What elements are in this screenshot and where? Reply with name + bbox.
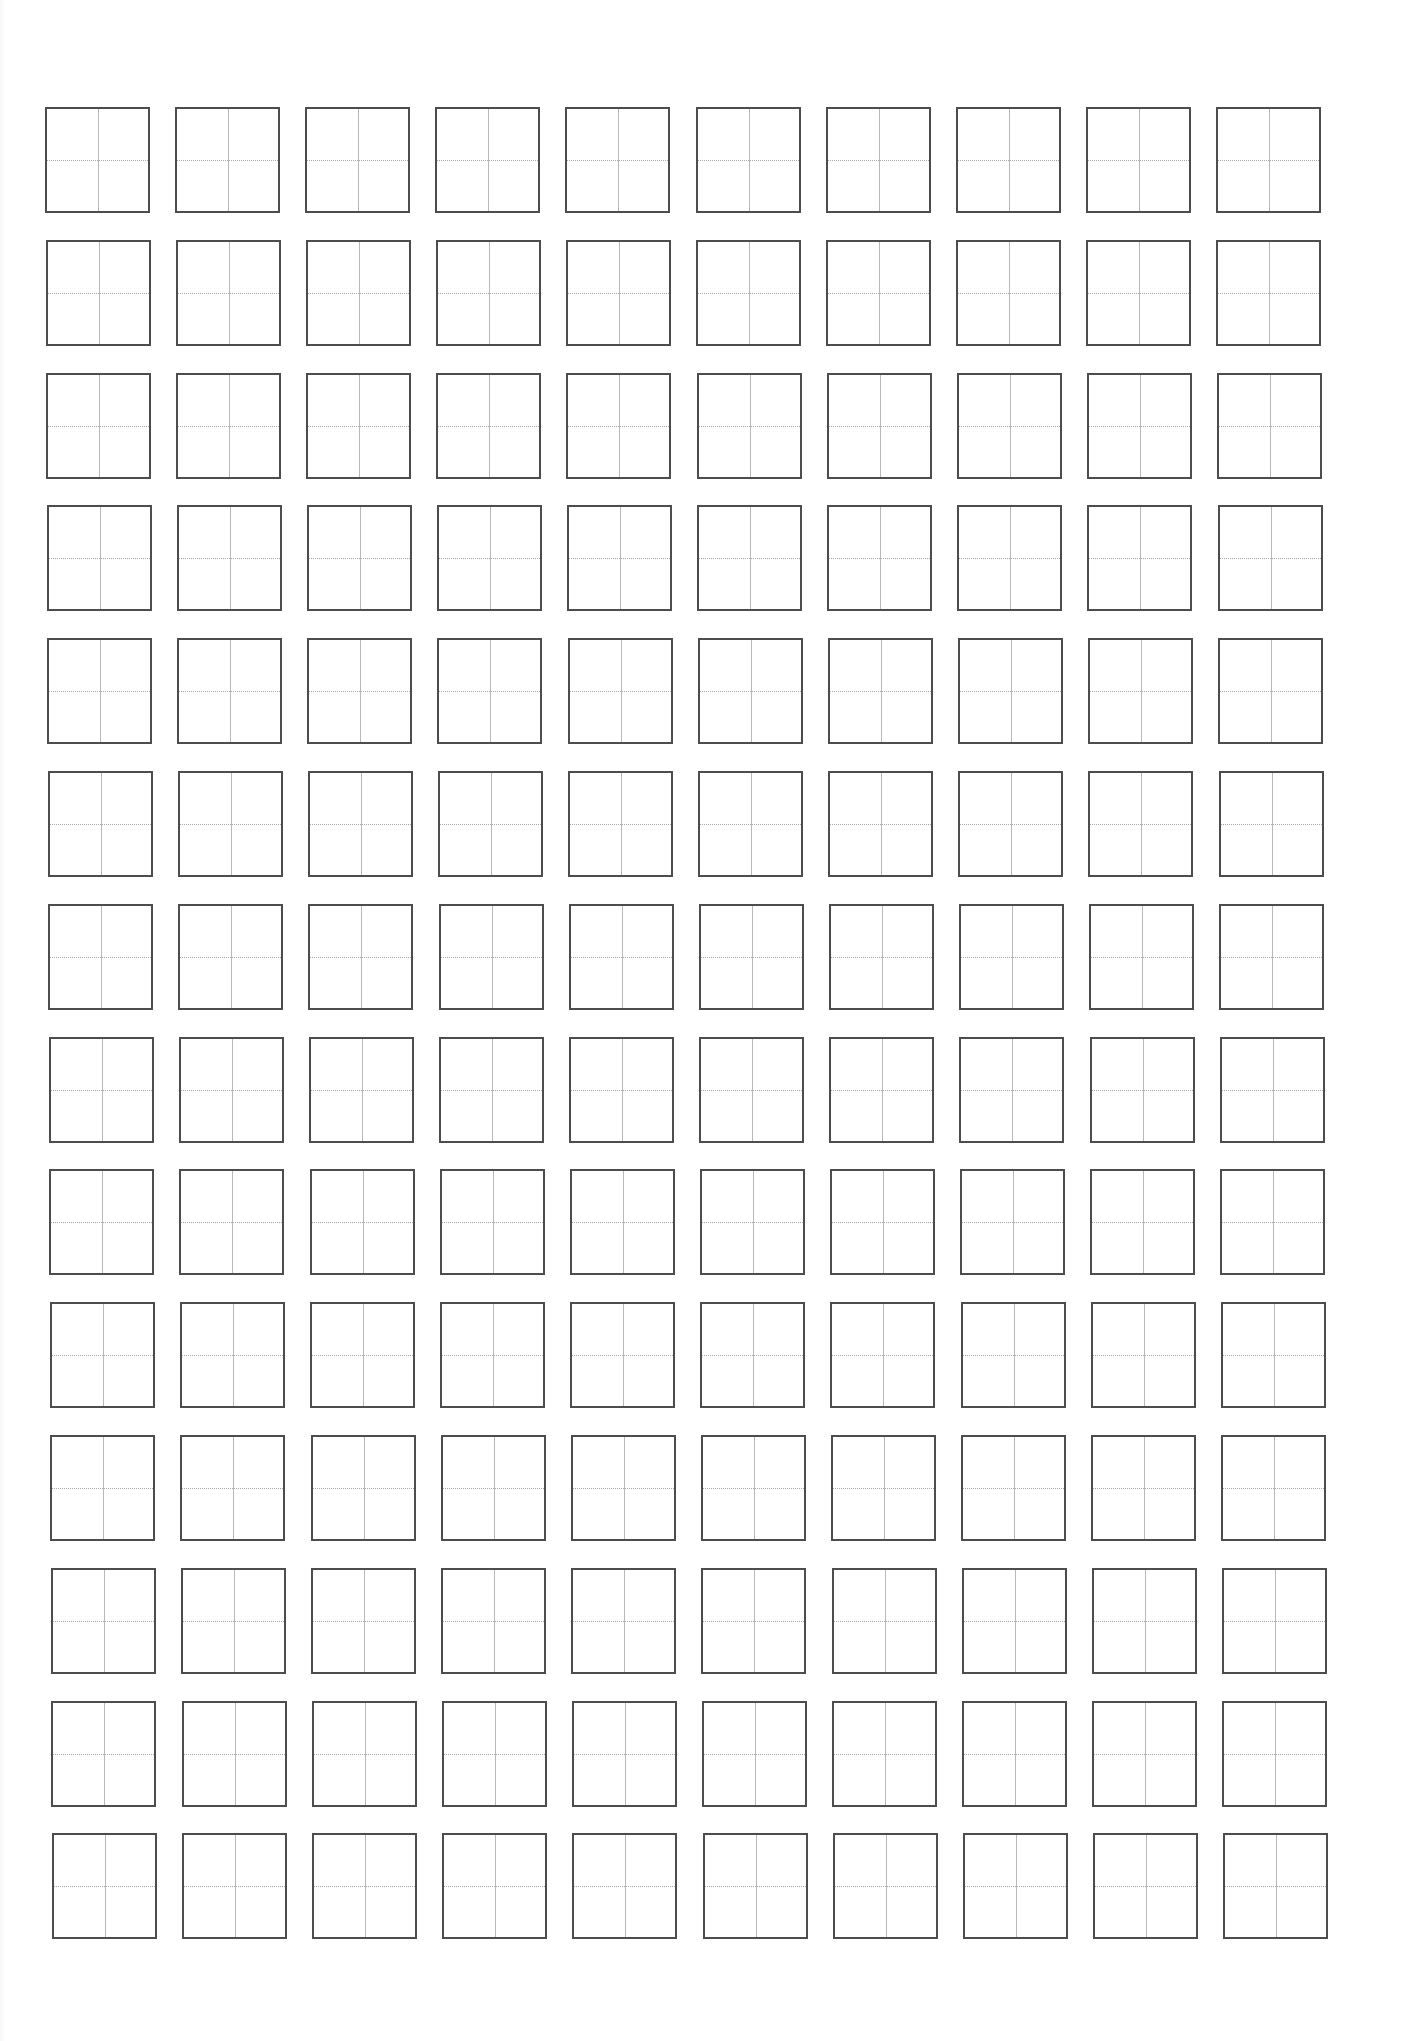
horizontal-guide-line (1093, 1488, 1194, 1489)
writing-cell (826, 107, 931, 213)
writing-cell (960, 1169, 1065, 1275)
horizontal-guide-line (701, 1090, 802, 1091)
horizontal-guide-line (958, 293, 1059, 294)
horizontal-guide-line (829, 426, 930, 427)
writing-cell (701, 1435, 806, 1541)
writing-cell (703, 1833, 808, 1939)
writing-cell (958, 771, 1063, 877)
horizontal-guide-line (960, 824, 1061, 825)
writing-cell (566, 240, 671, 346)
writing-cell (697, 373, 802, 479)
writing-cell (178, 904, 283, 1010)
writing-cell (437, 505, 542, 611)
writing-cell (1218, 505, 1323, 611)
writing-cell (830, 1302, 935, 1408)
horizontal-guide-line (963, 1488, 1064, 1489)
writing-cell (1091, 1302, 1196, 1408)
horizontal-guide-line (1089, 426, 1190, 427)
horizontal-guide-line (830, 691, 931, 692)
writing-cell (827, 505, 932, 611)
horizontal-guide-line (439, 558, 540, 559)
horizontal-guide-line (1222, 1222, 1323, 1223)
writing-cell (1219, 771, 1324, 877)
horizontal-guide-line (571, 1090, 672, 1091)
writing-cell (50, 1302, 155, 1408)
horizontal-guide-line (1092, 1222, 1193, 1223)
writing-cell (48, 771, 153, 877)
writing-cell (437, 638, 542, 744)
horizontal-guide-line (49, 558, 150, 559)
horizontal-guide-line (963, 1355, 1064, 1356)
writing-cell (567, 505, 672, 611)
writing-cell (305, 107, 410, 213)
horizontal-guide-line (443, 1488, 544, 1489)
horizontal-guide-line (702, 1355, 803, 1356)
horizontal-guide-line (832, 1222, 933, 1223)
writing-cell (1222, 1701, 1327, 1807)
writing-cell (307, 638, 412, 744)
writing-cell (699, 1037, 804, 1143)
horizontal-guide-line (309, 558, 410, 559)
writing-cell (47, 505, 152, 611)
horizontal-guide-line (574, 1886, 675, 1887)
horizontal-guide-line (182, 1488, 283, 1489)
horizontal-guide-line (314, 1886, 415, 1887)
horizontal-guide-line (438, 426, 539, 427)
writing-cell (1090, 1169, 1195, 1275)
horizontal-guide-line (1223, 1488, 1324, 1489)
writing-cell (831, 1435, 936, 1541)
horizontal-guide-line (835, 1886, 936, 1887)
horizontal-guide-line (53, 1754, 154, 1755)
writing-cell (439, 1037, 544, 1143)
writing-cell (698, 771, 803, 877)
writing-cell (1092, 1568, 1197, 1674)
writing-cell (1220, 1169, 1325, 1275)
writing-cell (179, 1169, 284, 1275)
horizontal-guide-line (439, 691, 540, 692)
horizontal-guide-line (1218, 160, 1319, 161)
horizontal-guide-line (1090, 691, 1191, 692)
horizontal-guide-line (444, 1886, 545, 1887)
horizontal-guide-line (1224, 1621, 1325, 1622)
horizontal-guide-line (310, 957, 411, 958)
horizontal-guide-line (1089, 558, 1190, 559)
writing-cell (700, 1169, 805, 1275)
horizontal-guide-line (830, 824, 931, 825)
horizontal-guide-line (180, 824, 281, 825)
horizontal-guide-line (184, 1886, 285, 1887)
horizontal-guide-line (1225, 1886, 1326, 1887)
horizontal-guide-line (311, 1090, 412, 1091)
practice-sheet (0, 0, 1404, 2041)
writing-cell (49, 1169, 154, 1275)
horizontal-guide-line (443, 1621, 544, 1622)
horizontal-guide-line (1094, 1754, 1195, 1755)
writing-cell (696, 240, 801, 346)
horizontal-guide-line (1222, 1090, 1323, 1091)
horizontal-guide-line (178, 426, 279, 427)
horizontal-guide-line (442, 1355, 543, 1356)
writing-cell (50, 1435, 155, 1541)
horizontal-guide-line (1090, 824, 1191, 825)
writing-cell (180, 1302, 285, 1408)
writing-cell (1087, 373, 1192, 479)
horizontal-guide-line (308, 293, 409, 294)
horizontal-guide-line (442, 1222, 543, 1223)
writing-cell (565, 107, 670, 213)
writing-cell (180, 1435, 285, 1541)
horizontal-guide-line (53, 1621, 154, 1622)
writing-cell (436, 373, 541, 479)
writing-cell (1222, 1568, 1327, 1674)
horizontal-guide-line (959, 558, 1060, 559)
writing-cell (46, 240, 151, 346)
writing-cell (963, 1833, 1068, 1939)
horizontal-guide-line (1221, 824, 1322, 825)
horizontal-guide-line (960, 691, 1061, 692)
horizontal-guide-line (48, 293, 149, 294)
horizontal-guide-line (568, 293, 669, 294)
horizontal-guide-line (52, 1355, 153, 1356)
writing-cell (1219, 904, 1324, 1010)
writing-cell (568, 771, 673, 877)
writing-cell (828, 771, 933, 877)
writing-cell (1091, 1435, 1196, 1541)
horizontal-guide-line (702, 1222, 803, 1223)
